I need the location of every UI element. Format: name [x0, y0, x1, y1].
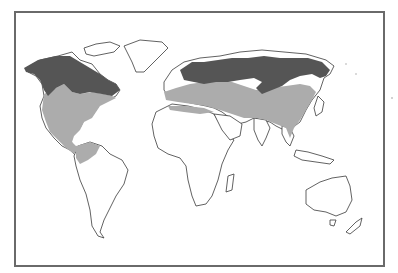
world-map [0, 0, 398, 273]
japan [314, 96, 324, 116]
speck [391, 97, 393, 99]
arctic-islands [84, 42, 120, 56]
australia [306, 176, 352, 216]
india [254, 118, 270, 146]
speck [355, 73, 356, 74]
madagascar [226, 174, 234, 192]
northern-region-north-america [24, 56, 120, 96]
tasmania [330, 220, 336, 226]
indonesia [294, 150, 334, 164]
speck [345, 63, 346, 64]
greenland [124, 40, 168, 72]
new-zealand [346, 218, 362, 234]
